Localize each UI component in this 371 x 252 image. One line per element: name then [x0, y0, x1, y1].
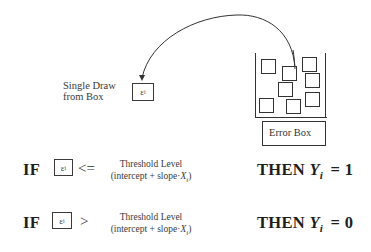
result-var: Y	[309, 160, 319, 179]
error-item	[262, 60, 276, 74]
result-var-sub: i	[320, 169, 323, 181]
result-var-sub: i	[320, 222, 323, 234]
error-items	[260, 58, 320, 114]
then-label: THEN	[257, 213, 305, 232]
rule2-then: THEN Yi = 0	[257, 213, 353, 234]
error-item	[287, 100, 301, 114]
rule2-threshold: Threshold Level (intercept + slope·Xi)	[96, 212, 206, 239]
error-item	[306, 74, 320, 88]
formula-suffix: )	[188, 171, 191, 181]
result-var: Y	[309, 213, 319, 232]
rule2-epsilon-box: εi	[52, 212, 72, 229]
rule1-operator: <=	[78, 160, 95, 177]
error-box-label: Error Box	[262, 121, 326, 146]
threshold-label: Threshold Level	[96, 212, 206, 224]
error-item	[306, 93, 320, 107]
rule1-epsilon-box: εi	[54, 159, 73, 176]
then-label: THEN	[257, 160, 305, 179]
epsilon-subscript: i	[144, 89, 146, 95]
error-item	[260, 99, 274, 113]
rule1-threshold: Threshold Level (intercept + slope·Xi)	[96, 159, 206, 186]
result-eq: = 0	[331, 213, 354, 232]
formula-prefix: (intercept + slope·	[111, 224, 181, 234]
single-draw-line2: from Box	[63, 91, 116, 102]
error-item	[279, 83, 293, 97]
single-draw-line1: Single Draw	[63, 80, 116, 91]
rule2-if: IF	[23, 213, 40, 233]
drawn-epsilon-box: εi	[132, 83, 154, 101]
rule1-if: IF	[23, 160, 40, 180]
rule1-then: THEN Yi = 1	[257, 160, 353, 181]
formula-prefix: (intercept + slope·	[111, 171, 181, 181]
error-item	[303, 58, 317, 72]
formula-suffix: )	[188, 224, 191, 234]
threshold-formula: (intercept + slope·Xi)	[96, 171, 206, 186]
single-draw-label: Single Draw from Box	[63, 80, 116, 102]
error-box-label-text: Error Box	[269, 127, 311, 138]
epsilon-subscript: i	[63, 218, 65, 224]
result-eq: = 1	[331, 160, 354, 179]
error-item	[283, 67, 297, 81]
threshold-formula: (intercept + slope·Xi)	[96, 224, 206, 239]
rule2-operator: >	[80, 213, 88, 230]
threshold-label: Threshold Level	[96, 159, 206, 171]
arrowhead-icon	[139, 75, 145, 81]
epsilon-subscript: i	[65, 165, 67, 171]
